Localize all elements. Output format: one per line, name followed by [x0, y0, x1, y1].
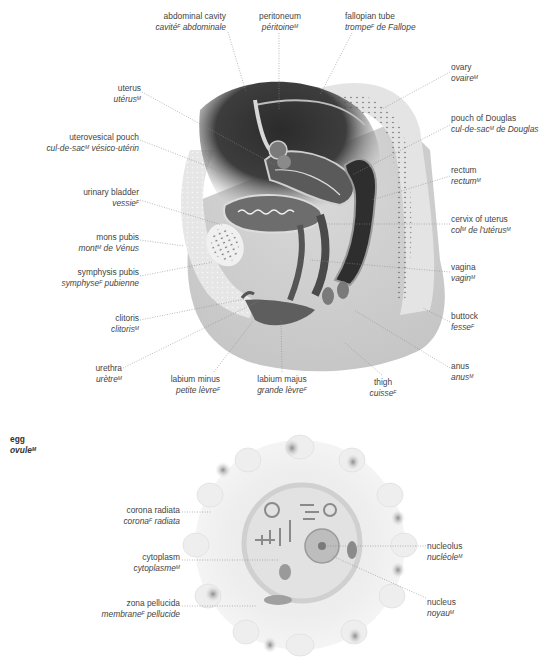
label-fallopian-tube: fallopian tube trompeF de Fallope [345, 11, 416, 32]
label-uterus: uterus utérusM [114, 83, 141, 104]
label-peritoneum: peritoneum péritoineM [255, 11, 305, 32]
label-anus: anus anusM [451, 361, 473, 382]
label-vagina: vagina vaginM [451, 262, 476, 283]
pelvis-illustration [181, 82, 445, 371]
label-rectum: rectum rectumM [451, 165, 481, 186]
label-symphysis-pubis: symphysis pubis symphyseF pubienne [61, 267, 139, 288]
label-labium-majus: labium majus grande lèvreF [247, 374, 317, 395]
label-ovary: ovary ovaireM [451, 62, 478, 83]
label-nucleolus: nucleolus nucléoleM [427, 541, 462, 562]
egg-illustration [183, 435, 417, 656]
label-labium-minus: labium minus petite lèvreF [171, 374, 220, 395]
label-buttock: buttock fesseF [451, 311, 478, 332]
label-pouch-of-douglas: pouch of Douglas cul-de-sacM de Douglas [451, 113, 539, 134]
label-urinary-bladder: urinary bladder vessieF [83, 187, 139, 208]
label-uterovesical-pouch: uterovesical pouch cul-de-sacM vésico-ut… [46, 132, 139, 153]
egg-title: egg ovuleM [10, 434, 36, 455]
label-corona-radiata: corona radiata coronaF radiata [123, 505, 180, 526]
label-mons-pubis: mons pubis montM de Vénus [78, 232, 139, 253]
label-cytoplasm: cytoplasm cytoplasmeM [133, 552, 180, 573]
label-thigh: thigh cuisseF [358, 377, 408, 398]
label-clitoris: clitoris clitorisM [111, 313, 139, 334]
label-urethra: urethra urètreM [95, 363, 122, 384]
label-cervix-of-uterus: cervix of uterus colM de l'utérusM [451, 214, 511, 235]
label-abdominal-cavity: abdominal cavity cavitéF abdominale [155, 11, 226, 32]
label-nucleus: nucleus noyauM [427, 597, 456, 618]
label-zona-pellucida: zona pellucida membraneF pellucide [102, 598, 180, 619]
